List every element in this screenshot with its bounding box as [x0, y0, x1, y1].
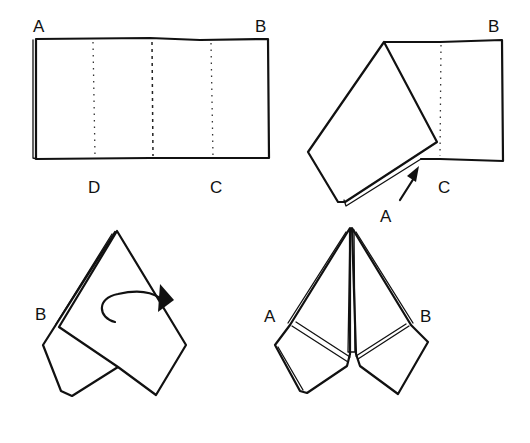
napkin-fold-diagram: A B D C B C A B A B [0, 0, 530, 443]
step-1-fold-line-c [211, 43, 213, 157]
step-2-label-a: A [380, 207, 392, 226]
step-2-arrowhead-icon [407, 166, 419, 182]
step-1-label-a: A [33, 17, 45, 36]
step-4-label-b: B [420, 307, 431, 326]
step-2-folded-flap [308, 42, 437, 202]
step-1-panel: A B D C [33, 17, 269, 197]
step-3-label-b: B [35, 305, 46, 324]
step-2-arrow-to-c-icon [400, 178, 414, 200]
step-3-turn-arrowhead-icon [158, 284, 174, 312]
step-4-right-point [352, 228, 428, 394]
step-2-fold-line-c [440, 45, 441, 156]
step-4-left-point [275, 228, 350, 393]
step-3-panel: B [35, 231, 186, 396]
step-2-label-c: C [438, 178, 450, 197]
step-1-label-b: B [255, 17, 266, 36]
step-2-panel: B C A [308, 17, 503, 226]
step-4-panel: A B [264, 228, 431, 394]
step-1-label-c: C [210, 178, 222, 197]
step-1-label-d: D [88, 178, 100, 197]
step-1-fold-line-d [93, 42, 95, 156]
step-4-label-a: A [264, 307, 276, 326]
step-1-fold-line-center [152, 42, 153, 156]
step-2-label-b: B [488, 17, 499, 36]
